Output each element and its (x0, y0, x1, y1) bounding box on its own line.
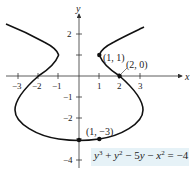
point-1-neg3 (97, 137, 101, 141)
y-tick-label: −1 (63, 92, 73, 102)
x-tick-label: −3 (12, 81, 22, 91)
label-point-1-neg3: (1, −3) (86, 126, 113, 138)
y-tick-label: −2 (63, 113, 73, 123)
point-2-0 (117, 74, 121, 78)
y-tick-label: 2 (67, 29, 72, 39)
right-upper-branch (99, 27, 144, 55)
left-upper-branch (6, 24, 59, 55)
x-tick-label: 3 (138, 81, 143, 91)
label-point-1-1: (1, 1) (103, 52, 125, 64)
implicit-curve-plot: x y −3 −2 −1 1 2 3 2 −1 −2 −4 (1, 1) (2,… (0, 0, 192, 170)
x-tick-label: 1 (97, 81, 102, 91)
y-axis-label: y (75, 3, 81, 14)
x-axis-label: x (184, 71, 190, 82)
point-0-neg3 (77, 138, 81, 142)
x-tick-label: −1 (52, 81, 62, 91)
point-1-1 (97, 53, 101, 57)
x-tick-label: 2 (117, 81, 122, 91)
label-point-2-0: (2, 0) (126, 59, 148, 71)
x-tick-label: −2 (32, 81, 42, 91)
equation-text: y3 + y2 − 5y − x2 = −4 (94, 149, 188, 161)
y-tick-label: −4 (63, 155, 73, 165)
